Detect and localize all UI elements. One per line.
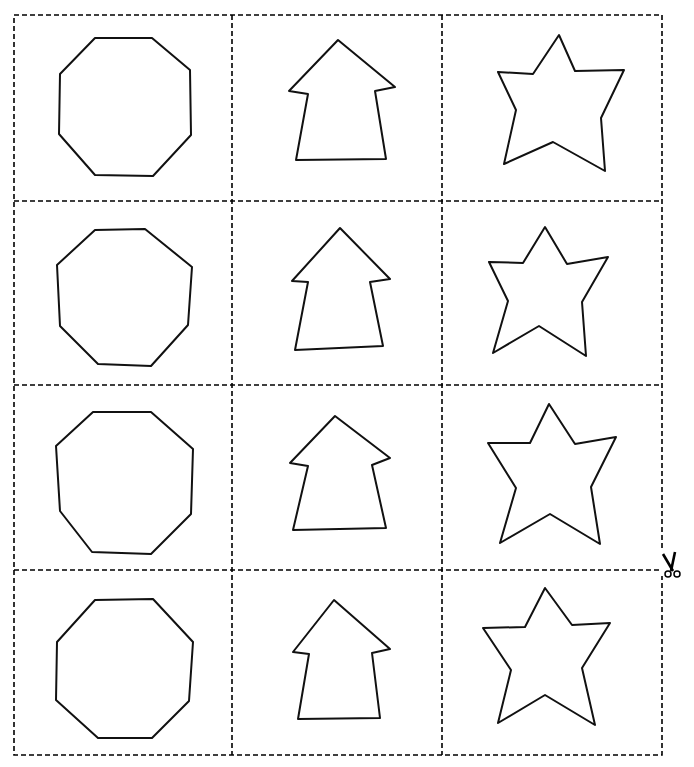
worksheet: [0, 0, 694, 767]
octagon-shape-row-3: [56, 412, 193, 554]
star-column: [483, 35, 624, 725]
star-shape-row-1: [498, 35, 624, 171]
arrow-shape-row-4: [293, 600, 390, 719]
octagon-shape-row-1: [59, 38, 191, 176]
star-shape-row-2: [489, 227, 608, 356]
octagon-column: [56, 38, 193, 738]
scissors-icon: [660, 550, 684, 577]
arrow-shape-row-3: [290, 416, 390, 530]
octagon-shape-row-2: [57, 229, 192, 366]
arrow-shape-row-1: [289, 40, 395, 160]
star-shape-row-3: [488, 404, 616, 544]
arrow-column: [289, 40, 395, 719]
arrow-shape-row-2: [292, 228, 390, 350]
octagon-shape-row-4: [56, 599, 193, 738]
star-shape-row-4: [483, 588, 610, 725]
cutout-worksheet-canvas: [0, 0, 694, 767]
